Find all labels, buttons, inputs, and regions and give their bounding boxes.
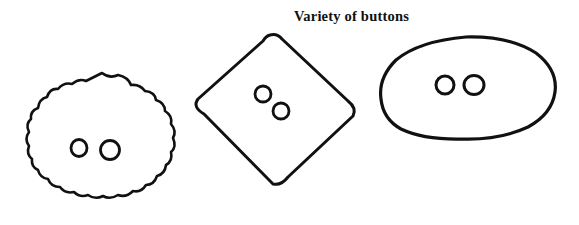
- oval-button-hole-right: [464, 76, 484, 95]
- diamond-button: [196, 35, 354, 185]
- scalloped-round-button: [27, 73, 175, 198]
- diamond-button-hole-upper: [255, 86, 271, 102]
- oval-button: [381, 37, 556, 139]
- oval-button-outline: [381, 37, 556, 139]
- oval-button-hole-left: [436, 76, 454, 94]
- scalloped-button-hole-right: [101, 141, 120, 160]
- diamond-button-hole-lower: [273, 103, 289, 119]
- scalloped-button-outline: [27, 73, 175, 198]
- buttons-illustration: [0, 0, 579, 225]
- scalloped-button-hole-left: [71, 140, 87, 157]
- diamond-button-outline: [196, 35, 354, 185]
- figure-root: Variety of buttons: [0, 0, 579, 225]
